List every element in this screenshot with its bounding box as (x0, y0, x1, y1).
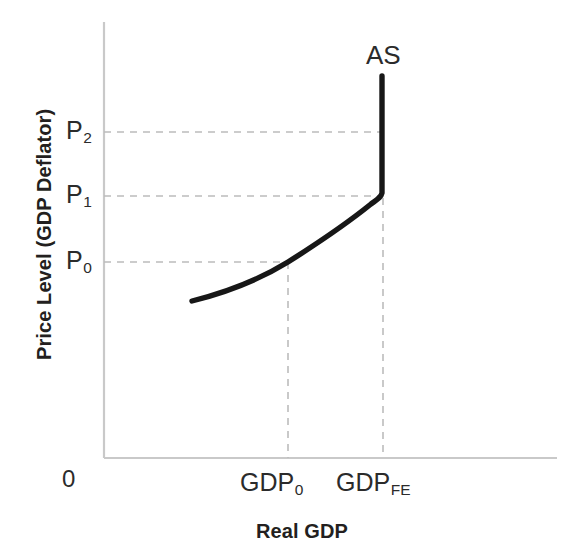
aggregate-supply-chart: P2 P1 P0 GDP0 GDPFE 0 AS Price Level (GD… (0, 0, 585, 559)
x-tick-label-gdp0: GDP0 (240, 470, 303, 495)
y-tick-p0-base: P (66, 246, 83, 274)
y-tick-label-p1: P1 (66, 182, 91, 207)
as-curve-label: AS (366, 42, 401, 68)
x-tick-gdpfe-base: GDP (336, 468, 390, 496)
as-curve (192, 76, 382, 301)
x-tick-gdp0-base: GDP (240, 468, 294, 496)
x-tick-label-gdpfe: GDPFE (336, 470, 410, 495)
y-tick-p2-base: P (66, 116, 83, 144)
y-tick-p1-base: P (66, 180, 83, 208)
y-tick-label-p0: P0 (66, 248, 91, 273)
x-axis-title: Real GDP (256, 521, 348, 541)
y-tick-p1-sub: 1 (83, 193, 92, 210)
y-tick-label-p2: P2 (66, 118, 91, 143)
y-tick-p0-sub: 0 (83, 259, 92, 276)
origin-label: 0 (62, 467, 75, 491)
y-tick-p2-sub: 2 (83, 129, 92, 146)
x-tick-gdp0-sub: 0 (295, 481, 304, 498)
y-axis-title: Price Level (GDP Deflator) (34, 109, 54, 360)
x-tick-gdpfe-sub: FE (391, 481, 411, 498)
